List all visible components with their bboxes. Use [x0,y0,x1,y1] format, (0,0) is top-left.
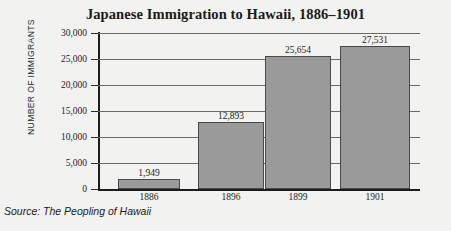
bar-value-label: 1,949 [138,168,159,178]
gridline [98,33,420,34]
y-axis-tick-label: 25,000 [61,54,87,64]
y-axis-tick-label: 15,000 [61,106,87,116]
bar: 27,5311901 [340,46,410,189]
plot-area: 05,00010,00015,00020,00025,00030,000 1,9… [98,33,420,189]
y-axis-tick [91,85,98,86]
chart-figure: Japanese Immigration to Hawaii, 1886–190… [0,0,451,231]
page-title: Japanese Immigration to Hawaii, 1886–190… [0,6,451,23]
y-axis-tick [91,163,98,164]
bar: 25,6541899 [265,56,331,189]
y-axis-tick [91,59,98,60]
y-axis-tick [91,111,98,112]
x-axis-tick-label: 1886 [140,192,159,202]
x-axis-tick-label: 1901 [366,192,385,202]
y-axis-tick [91,189,98,190]
bar-value-label: 27,531 [362,35,388,45]
y-axis-tick-label: 10,000 [61,132,87,142]
x-axis-tick-label: 1896 [222,192,241,202]
y-axis-tick [91,33,98,34]
y-axis-tick-label: 20,000 [61,80,87,90]
y-axis-tick-label: 0 [82,184,87,194]
y-axis-tick [91,137,98,138]
x-axis-line [98,189,420,191]
y-axis-tick-label: 5,000 [66,158,87,168]
x-axis-tick-label: 1899 [289,192,308,202]
y-axis-title: NUMBER OF IMMIGRANTS [26,2,36,152]
bar: 1,9491886 [118,179,180,189]
bar-value-label: 25,654 [285,45,311,55]
y-axis-tick-label: 30,000 [61,28,87,38]
source-note: Source: The Peopling of Hawaii [4,205,151,217]
bar: 12,8931896 [198,122,264,189]
bar-value-label: 12,893 [218,111,244,121]
